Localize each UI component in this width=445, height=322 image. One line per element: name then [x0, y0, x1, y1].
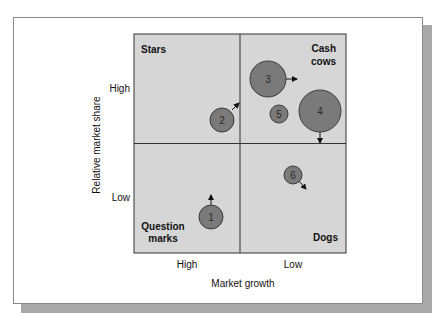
quadrant-label-question: Question [141, 221, 184, 232]
y-tick-high: High [109, 83, 130, 94]
bubble-5-label: 5 [276, 109, 282, 120]
bubble-6: 6 [284, 166, 302, 184]
bubble-4-label: 4 [317, 106, 323, 117]
bubble-2-label: 2 [219, 115, 225, 126]
quadrant-label-cows: cows [311, 56, 336, 67]
bubble-4: 4 [299, 90, 341, 132]
bubble-1-label: 1 [208, 212, 214, 223]
y-tick-low: Low [112, 192, 131, 203]
bubble-2: 2 [210, 108, 234, 132]
bubble-6-label: 6 [290, 170, 296, 181]
x-tick-high: High [177, 259, 198, 270]
x-tick-low: Low [284, 259, 303, 270]
bcg-matrix: Stars Cash cows Question marks Dogs High… [0, 0, 445, 322]
quadrant-label-dogs: Dogs [313, 232, 338, 243]
quadrant-label-marks: marks [148, 233, 178, 244]
quadrant-label-stars: Stars [141, 44, 166, 55]
x-axis-title: Market growth [211, 278, 274, 289]
y-axis-title: Relative market share [91, 96, 102, 194]
bubble-1: 1 [199, 205, 223, 229]
bubble-3-label: 3 [265, 74, 271, 85]
bubble-5: 5 [270, 105, 288, 123]
bubble-3: 3 [250, 61, 286, 97]
quadrant-label-cash: Cash [312, 43, 336, 54]
